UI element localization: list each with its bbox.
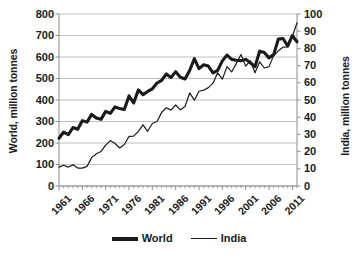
series-line-india xyxy=(59,23,297,168)
plot-area xyxy=(0,0,358,259)
legend-swatch-world-icon xyxy=(112,237,138,241)
chart-container: World, million tonnes India, million ton… xyxy=(0,0,358,259)
legend-item-india: India xyxy=(191,233,247,244)
legend-label-world: World xyxy=(142,233,173,244)
chart-legend: World India xyxy=(0,233,358,244)
legend-item-world: World xyxy=(112,233,173,244)
series-line-world xyxy=(59,36,297,139)
legend-label-india: India xyxy=(221,233,247,244)
legend-swatch-india-icon xyxy=(191,238,217,240)
